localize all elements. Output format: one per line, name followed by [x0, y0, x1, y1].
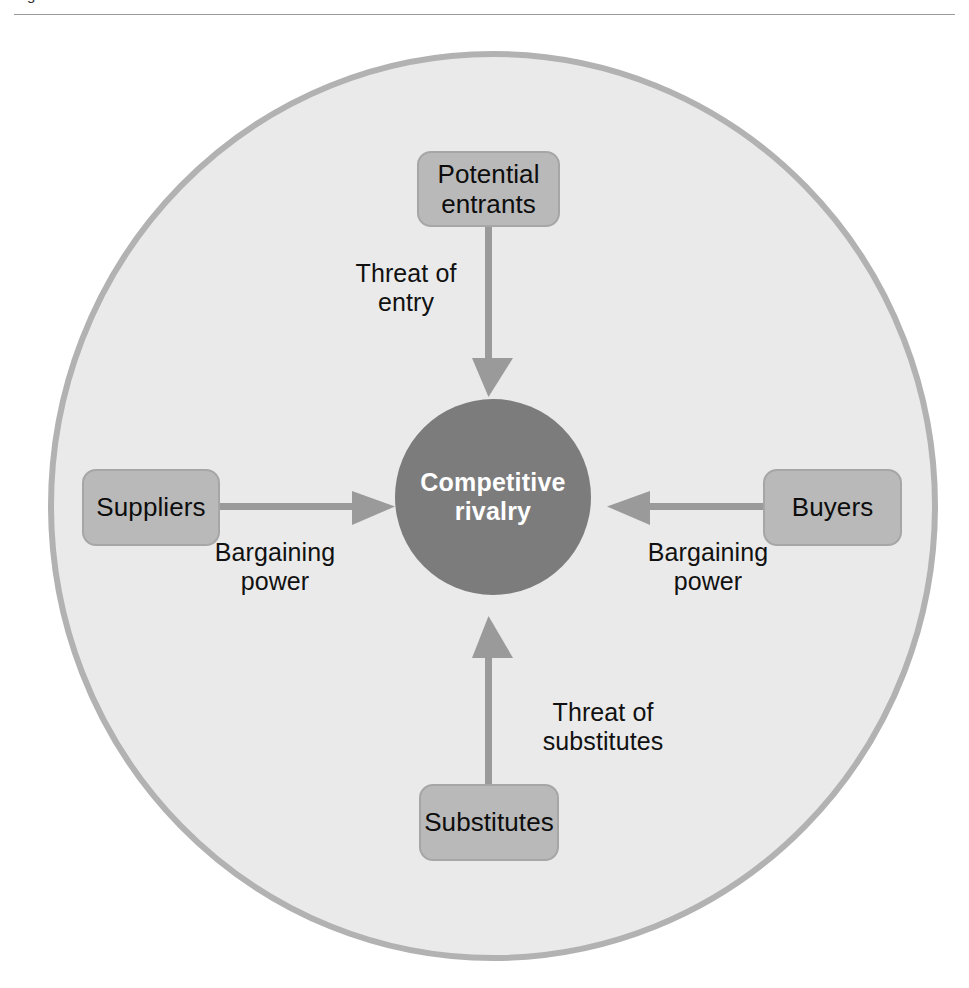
substitutes-label: Substitutes	[420, 785, 558, 860]
threat-of-entry-label: Threat of entry	[330, 259, 482, 317]
competitive-rivalry-label: Competitive rivalry	[395, 399, 591, 595]
threat-of-substitutes-label: Threat of substitutes	[508, 698, 698, 756]
five-forces-diagram: Potential entrants Suppliers Buyers Subs…	[0, 0, 969, 988]
potential-entrants-label: Potential entrants	[418, 152, 559, 226]
buyer-bargaining-power-label: Bargaining power	[624, 538, 792, 596]
figure-canvas: Figure The five forces framework	[0, 0, 969, 988]
suppliers-label: Suppliers	[83, 470, 219, 545]
buyers-label: Buyers	[764, 470, 901, 545]
supplier-bargaining-power-label: Bargaining power	[191, 538, 359, 596]
